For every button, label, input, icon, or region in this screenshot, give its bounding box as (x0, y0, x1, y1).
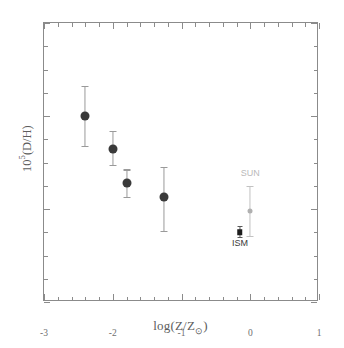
axis-tick-x (99, 297, 100, 301)
axis-tick-x (209, 297, 210, 301)
axis-tick-x (72, 297, 73, 301)
axis-tick-y (314, 279, 318, 280)
axis-tick-y (44, 209, 50, 210)
axis-tick-x (292, 297, 293, 301)
annotation-label-sun: SUN (241, 168, 260, 178)
y-axis-label-suffix: (D/H) (20, 125, 34, 155)
axis-tick-x (237, 297, 238, 301)
axis-tick-y (44, 93, 48, 94)
error-bar-cap (123, 169, 130, 170)
axis-tick-x (72, 23, 73, 27)
x-axis-label: log(Z/Z⊙) (43, 318, 318, 336)
axis-tick-y (311, 302, 317, 303)
axis-tick-y (314, 232, 318, 233)
axis-tick-y (311, 209, 317, 210)
data-point-marker[interactable] (237, 230, 243, 236)
axis-tick-x (182, 23, 183, 29)
error-bar-cap (82, 146, 89, 147)
axis-tick-x (113, 23, 114, 29)
axis-tick-x (319, 23, 320, 29)
axis-tick-x (278, 23, 279, 27)
axis-tick-x (168, 297, 169, 301)
axis-tick-y (44, 302, 50, 303)
axis-tick-x (305, 23, 306, 27)
axis-tick-x (127, 23, 128, 27)
data-point-marker[interactable] (81, 112, 90, 121)
data-point-marker[interactable] (160, 193, 169, 202)
axis-tick-x (140, 23, 141, 27)
axis-tick-x (140, 297, 141, 301)
axis-tick-x (182, 294, 183, 300)
axis-tick-y (44, 256, 48, 257)
axis-tick-x (154, 297, 155, 301)
data-point-marker[interactable] (122, 179, 131, 188)
axis-tick-y (44, 163, 48, 164)
y-axis-label-exponent: 5 (17, 155, 27, 159)
y-axis-label: 105(D/H) (17, 79, 34, 219)
axis-tick-x (250, 294, 251, 300)
axis-tick-y (44, 70, 48, 71)
axis-tick-y (314, 186, 318, 187)
axis-tick-y (314, 163, 318, 164)
axis-tick-y (314, 46, 318, 47)
axis-tick-x (305, 297, 306, 301)
axis-tick-x (223, 23, 224, 27)
axis-tick-y (314, 70, 318, 71)
axis-tick-x (168, 23, 169, 27)
axis-tick-x (58, 297, 59, 301)
axis-tick-x (264, 23, 265, 27)
axis-tick-x (58, 23, 59, 27)
axis-tick-y (44, 46, 48, 47)
axis-tick-y (44, 139, 48, 140)
axis-tick-y (314, 93, 318, 94)
x-axis-label-prefix: log(Z/Z (153, 318, 195, 333)
figure-canvas: 0246-3-2-101ISMSUN 105(D/H) log(Z/Z⊙) (0, 0, 344, 348)
data-point-marker[interactable] (248, 209, 253, 214)
axis-tick-x (85, 297, 86, 301)
axis-tick-y (314, 256, 318, 257)
axis-tick-x (195, 23, 196, 27)
error-bar-cap (109, 165, 116, 166)
axis-tick-y (44, 186, 48, 187)
axis-tick-x (127, 297, 128, 301)
axis-tick-x (319, 294, 320, 300)
axis-tick-x (195, 297, 196, 301)
axis-tick-x (292, 23, 293, 27)
axis-tick-x (278, 297, 279, 301)
error-bar-cap (247, 186, 254, 187)
error-bar-cap (161, 167, 168, 168)
error-bar-cap (82, 86, 89, 87)
axis-tick-y (44, 279, 48, 280)
axis-tick-x (250, 23, 251, 29)
data-point-marker[interactable] (108, 144, 117, 153)
axis-tick-x (154, 23, 155, 27)
axis-tick-y (311, 116, 317, 117)
axis-tick-y (44, 116, 50, 117)
error-bar-cap (109, 131, 116, 132)
error-bar-cap (161, 231, 168, 232)
axis-tick-x (113, 294, 114, 300)
axis-tick-y (314, 139, 318, 140)
plot-area: 0246-3-2-101ISMSUN (43, 22, 318, 301)
y-axis-label-mantissa: 10 (20, 159, 34, 172)
axis-tick-x (85, 23, 86, 27)
annotation-label-ism: ISM (232, 238, 248, 248)
axis-tick-x (237, 23, 238, 27)
axis-tick-x (223, 297, 224, 301)
error-bar-cap (123, 197, 130, 198)
axis-tick-y (311, 23, 317, 24)
axis-tick-y (44, 23, 50, 24)
axis-tick-x (264, 297, 265, 301)
error-bar-cap (247, 236, 254, 237)
axis-tick-x (99, 23, 100, 27)
axis-tick-x (44, 294, 45, 300)
axis-tick-y (44, 232, 48, 233)
x-axis-label-suffix: ) (203, 318, 208, 333)
axis-tick-x (209, 23, 210, 27)
error-bar-cap (237, 226, 242, 227)
